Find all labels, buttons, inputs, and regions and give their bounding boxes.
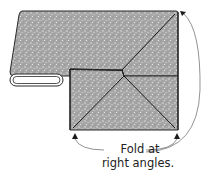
left-arrow-icon	[72, 133, 78, 139]
mitered-square	[70, 69, 178, 130]
caption-line-2: right angles.	[80, 157, 196, 170]
fabric-band	[10, 11, 178, 76]
folded-roll-inner	[13, 77, 60, 84]
caption-line-1: Fold at	[92, 143, 188, 156]
right-arrow-icon	[174, 133, 180, 139]
